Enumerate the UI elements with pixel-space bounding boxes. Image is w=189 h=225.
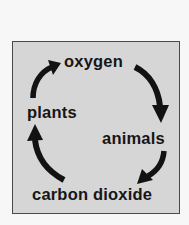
diagram-canvas: oxygen animals carbon dioxide plants — [0, 0, 189, 225]
node-plants: plants — [27, 104, 77, 121]
node-oxygen: oxygen — [64, 53, 123, 70]
node-animals: animals — [102, 130, 165, 147]
arrow-oxygen-to-animals-icon — [135, 67, 169, 123]
arrow-animals-to-carbon-dioxide-icon — [137, 151, 164, 184]
node-carbon-dioxide: carbon dioxide — [32, 186, 152, 203]
arrow-carbon-dioxide-to-plants-icon — [27, 124, 64, 180]
arrow-plants-to-oxygen-icon — [33, 60, 61, 98]
